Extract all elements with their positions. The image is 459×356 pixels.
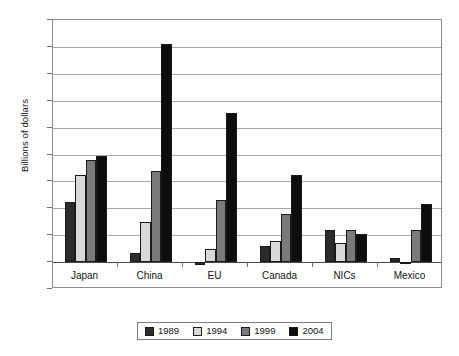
chart-legend: 1989199419992004 <box>137 322 332 340</box>
legend-swatch-1994 <box>193 327 202 336</box>
x-axis-tick-mark <box>247 262 248 267</box>
legend-item-1999: 1999 <box>241 326 275 336</box>
x-axis-tick-mark <box>182 262 183 267</box>
x-axis-label-japan: Japan <box>52 270 117 281</box>
x-axis-label-mexico: Mexico <box>377 270 442 281</box>
bar-china-1994 <box>140 222 151 262</box>
legend-item-2004: 2004 <box>289 326 323 336</box>
bar-mexico-1989 <box>390 258 401 262</box>
bar-canada-2004 <box>291 175 302 262</box>
bar-eu-1999 <box>216 200 227 262</box>
legend-swatch-1989 <box>145 327 154 336</box>
legend-label-1999: 1999 <box>254 326 275 336</box>
x-axis-label-eu: EU <box>182 270 247 281</box>
bar-japan-1999 <box>86 160 97 262</box>
bar-mexico-1999 <box>411 230 422 262</box>
bar-china-1999 <box>151 171 162 262</box>
bar-mexico-1994 <box>400 262 411 264</box>
legend-label-1994: 1994 <box>206 326 227 336</box>
plot-area <box>52 19 442 288</box>
bar-nics-2004 <box>356 234 367 262</box>
x-axis-label-canada: Canada <box>247 270 312 281</box>
x-axis-tick-mark <box>312 262 313 267</box>
bar-japan-1994 <box>75 175 86 262</box>
legend-item-1994: 1994 <box>193 326 227 336</box>
bars-layer <box>53 20 441 287</box>
x-axis-label-nics: NICs <box>312 270 377 281</box>
x-axis-label-china: China <box>117 270 182 281</box>
y-axis-tick-mark <box>47 288 52 289</box>
bar-china-1989 <box>130 253 141 262</box>
bar-canada-1994 <box>270 241 281 263</box>
bar-nics-1999 <box>346 230 357 262</box>
bar-japan-1989 <box>65 202 76 263</box>
bar-nics-1989 <box>325 230 336 262</box>
x-axis-tick-mark <box>117 262 118 267</box>
legend-swatch-2004 <box>289 327 298 336</box>
bar-nics-1994 <box>335 243 346 262</box>
bar-canada-1989 <box>260 246 271 262</box>
y-axis-title: Billions of dollars <box>19 66 30 206</box>
bar-china-2004 <box>161 44 172 262</box>
bar-canada-1999 <box>281 214 292 262</box>
bar-eu-2004 <box>226 113 237 262</box>
legend-item-1989: 1989 <box>145 326 179 336</box>
bar-eu-1989 <box>195 262 206 265</box>
bar-chart: Billions of dollars 18016014012010080604… <box>0 0 459 356</box>
x-axis-tick-mark <box>377 262 378 267</box>
legend-label-2004: 2004 <box>302 326 323 336</box>
bar-mexico-2004 <box>421 204 432 262</box>
bar-eu-1994 <box>205 249 216 262</box>
legend-swatch-1999 <box>241 327 250 336</box>
bar-japan-2004 <box>96 156 107 262</box>
legend-label-1989: 1989 <box>158 326 179 336</box>
